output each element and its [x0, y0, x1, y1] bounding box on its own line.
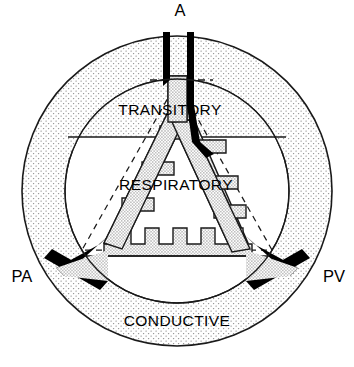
airway-wall-left — [163, 32, 170, 86]
zone-label-respiratory: RESPIRATORY — [119, 176, 233, 193]
zone-label-conductive: CONDUCTIVE — [124, 312, 230, 329]
lung-diagram-canvas: TRANSITORY RESPIRATORY CONDUCTIVE A PA P… — [0, 0, 354, 367]
vessel-label-airway: A — [174, 1, 185, 19]
vessel-label-pulmonary-vein: PV — [323, 267, 345, 285]
zone-label-transitory: TRANSITORY — [118, 101, 221, 118]
vessel-label-pulmonary-artery: PA — [12, 267, 33, 285]
airway-wall-right — [187, 32, 194, 105]
lung-zones-diagram: TRANSITORY RESPIRATORY CONDUCTIVE A PA P… — [0, 0, 354, 367]
